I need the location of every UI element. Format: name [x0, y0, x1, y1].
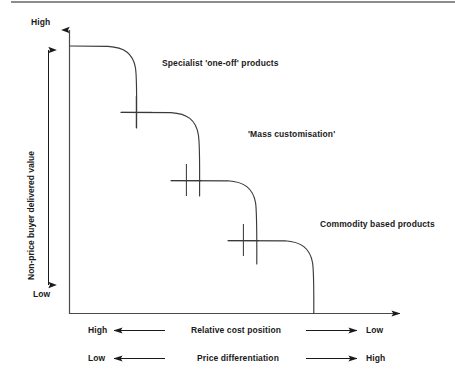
x-axis-row1-right-label: Low [366, 325, 383, 335]
strategy-clock-figure [0, 0, 455, 378]
knee-marker-2 [171, 164, 202, 196]
frontier-curve-commodity-upper [171, 181, 257, 264]
x-axis-row1-left-label: High [88, 325, 107, 335]
y-axis-low-label: Low [33, 289, 50, 299]
frontier-curves [70, 46, 314, 314]
chart-axes [69, 30, 400, 314]
frontier-curve-mass-customisation [121, 112, 200, 196]
x-axis-row2-right-label: High [366, 353, 385, 363]
annotation-commodity-products: Commodity based products [320, 219, 435, 229]
frontier-curve-commodity [228, 241, 314, 314]
annotation-mass-customisation: 'Mass customisation' [248, 129, 335, 139]
x-axis-row2-left-label: Low [88, 353, 105, 363]
y-axis-high-label: High [31, 17, 50, 27]
knee-marker-1 [121, 96, 152, 128]
x-axis-row1-center-label: Relative cost position [191, 325, 281, 335]
figure-canvas: High Low Non-price buyer delivered value… [0, 0, 455, 378]
annotation-specialist-products: Specialist 'one-off' products [162, 58, 279, 68]
knee-markers [121, 96, 259, 256]
frontier-curve-specialist [70, 46, 137, 128]
x-axis-row2-center-label: Price differentiation [197, 353, 279, 363]
knee-marker-3 [228, 224, 259, 256]
y-axis-title: Non-price buyer delivered value [26, 151, 36, 280]
